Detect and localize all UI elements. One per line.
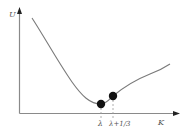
lambda-label: λ bbox=[97, 119, 103, 128]
x-axis-label: K bbox=[157, 118, 165, 127]
potential-curve-diagram: U K λ λ+1/3 bbox=[0, 0, 188, 135]
x-axis-arrow-icon bbox=[173, 111, 180, 116]
point-lambda bbox=[97, 100, 105, 108]
potential-curve bbox=[32, 18, 170, 104]
y-axis-arrow-icon bbox=[17, 7, 22, 14]
y-axis-label: U bbox=[9, 10, 16, 19]
lambda-plus-third-label: λ+1/3 bbox=[108, 120, 131, 128]
point-lambda-plus-third bbox=[109, 92, 117, 100]
